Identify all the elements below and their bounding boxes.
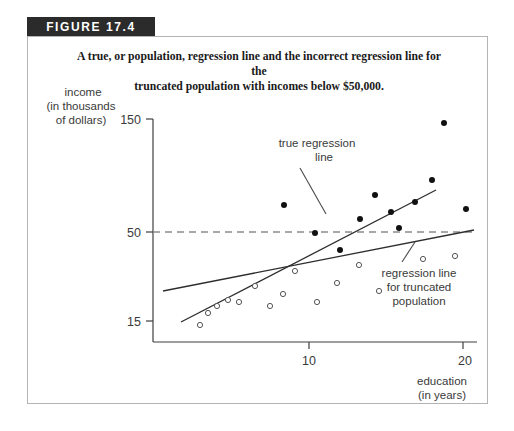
y-axis-label-line-3: of dollars)	[56, 114, 107, 126]
data-point-filled	[337, 247, 343, 253]
data-point-filled	[396, 225, 402, 231]
x-tick-label-20: 20	[458, 354, 472, 368]
truncated-regression-annotation-line-2: for truncated	[387, 281, 452, 293]
data-point-filled	[429, 177, 435, 183]
figure-root: FIGURE 17.4 A true, or population, regre…	[0, 0, 514, 431]
y-tick-label-150: 150	[120, 113, 141, 127]
data-point-filled	[357, 216, 363, 222]
data-point-filled	[441, 120, 447, 126]
data-point-open	[356, 262, 361, 267]
data-point-open	[420, 256, 425, 261]
scatter-plot: 150 50 15 10 20 income (in thousands of …	[28, 37, 489, 405]
x-axis-label-line-2: (in years)	[418, 389, 466, 401]
data-point-open	[267, 303, 272, 308]
data-point-open	[236, 299, 241, 304]
data-point-open	[314, 299, 319, 304]
data-point-open	[334, 280, 339, 285]
data-point-filled	[372, 192, 378, 198]
data-point-filled	[412, 199, 418, 205]
x-axis-label-line-1: education	[417, 375, 467, 387]
y-axis-label-line-2: (in thousands	[46, 100, 115, 112]
figure-number-tab: FIGURE 17.4	[27, 17, 155, 36]
true-regression-leader-line	[300, 168, 326, 214]
data-point-filled	[463, 206, 469, 212]
data-point-filled	[281, 202, 287, 208]
data-point-open	[452, 253, 457, 258]
data-point-open	[376, 288, 381, 293]
data-point-open	[292, 268, 297, 273]
data-point-open	[197, 322, 202, 327]
data-point-open	[205, 310, 210, 315]
data-point-open	[280, 291, 285, 296]
truncated-regression-leader-line	[402, 242, 415, 262]
truncated-regression-annotation-line-3: population	[392, 295, 445, 307]
truncated-regression-annotation-line-1: regression line	[382, 267, 457, 279]
data-point-filled	[312, 230, 318, 236]
data-point-filled	[388, 209, 394, 215]
true-regression-annotation-line-2: line	[315, 151, 333, 163]
x-tick-label-10: 10	[302, 354, 316, 368]
data-point-open	[225, 297, 230, 302]
y-tick-label-15: 15	[127, 315, 141, 329]
figure-card: A true, or population, regression line a…	[27, 36, 488, 404]
true-regression-annotation-line-1: true regression	[279, 137, 356, 149]
y-tick-label-50: 50	[127, 226, 141, 240]
data-point-open	[252, 283, 257, 288]
y-axis-label-line-1: income	[64, 86, 101, 98]
data-point-open	[214, 303, 219, 308]
